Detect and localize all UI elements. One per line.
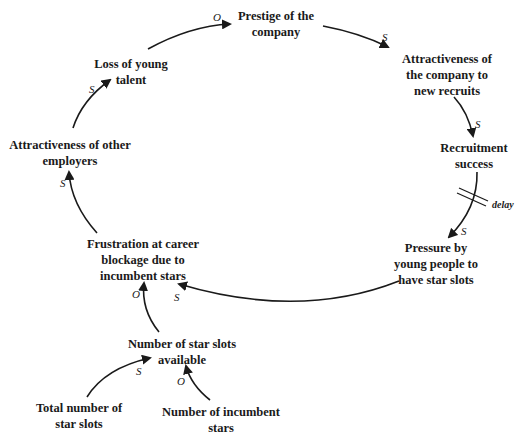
polarity-loss-to-prestige: O [213,12,221,23]
polarity-other-to-loss: S [89,84,95,95]
node-text: company [238,24,314,40]
node-text: Frustration at career [87,236,199,252]
node-text: Recruitment [440,140,507,156]
link-attractiveness-to-recruitment [454,97,473,136]
polarity-total-to-slots: S [136,366,142,377]
node-text: incumbent stars [87,268,199,284]
delay-label: delay [492,199,514,210]
node-number-of-star-slots-available: Number of star slots available [128,336,236,368]
node-text: talent [94,72,168,88]
node-loss-of-young-talent: Loss of young talent [94,56,168,88]
node-text: success [440,156,507,172]
node-text: have star slots [394,272,478,288]
causal-loop-diagram: Prestige of the company Attractiveness o… [0,0,524,441]
node-text: Number of incumbent [162,404,280,420]
link-incumbent-to-slots [186,366,210,400]
node-text: Attractiveness of other [9,137,130,153]
node-text: young people to [394,256,478,272]
node-text: Number of star slots [128,336,236,352]
link-pressure-to-frustration [179,281,399,301]
polarity-slots-to-frustration: O [132,289,140,300]
polarity-prestige-to-attractiveness: S [382,32,388,43]
node-text: available [128,352,236,368]
polarity-incumbent-to-slots: O [177,376,185,387]
polarity-frustration-to-other: S [60,178,66,189]
node-text: Prestige of the [238,8,314,24]
node-text: the company to [402,67,492,83]
node-attractiveness-of-other-employers: Attractiveness of other employers [9,137,130,169]
node-total-number-of-star-slots: Total number of star slots [36,400,122,432]
node-frustration-at-career-blockage: Frustration at career blockage due to in… [87,236,199,284]
node-text: new recruits [402,83,492,99]
node-text: employers [9,153,130,169]
node-text: star slots [36,416,122,432]
link-frustration-to-other-employers [69,172,97,233]
link-prestige-to-attractiveness [323,26,388,47]
node-attractiveness-of-company: Attractiveness of the company to new rec… [402,51,492,99]
node-text: stars [162,420,280,436]
node-pressure-by-young-people: Pressure by young people to have star sl… [394,240,478,288]
link-slots-to-frustration [144,283,159,332]
node-text: Total number of [36,400,122,416]
node-number-of-incumbent-stars: Number of incumbent stars [162,404,280,436]
polarity-pressure-to-frustration: S [174,292,180,303]
node-text: Pressure by [394,240,478,256]
node-text: Attractiveness of [402,51,492,67]
polarity-recruitment-to-pressure: S [461,226,467,237]
node-recruitment-success: Recruitment success [440,140,507,172]
node-prestige-of-the-company: Prestige of the company [238,8,314,40]
polarity-attractiveness-to-recruitment: S [475,119,481,130]
node-text: blockage due to [87,252,199,268]
node-text: Loss of young [94,56,168,72]
link-loss-to-prestige [148,24,230,49]
